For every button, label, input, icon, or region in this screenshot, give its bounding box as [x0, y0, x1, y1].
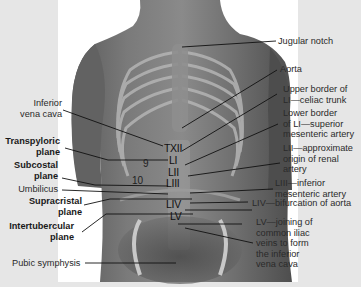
label-line: plane — [0, 147, 60, 158]
label-line: Transpyloric — [0, 136, 60, 147]
rib-number-9: 9 — [143, 158, 149, 169]
label-line: of LI—superior — [283, 119, 354, 130]
label-line: origin of renal — [283, 154, 353, 165]
label-line: LIII—inferior — [275, 178, 346, 189]
label-line: LV—joining of — [256, 217, 313, 228]
label-line: vena cava — [6, 109, 62, 120]
label-line: LII—approximate — [283, 143, 353, 154]
label-renal-artery: LII—approximate origin of renal artery — [283, 143, 353, 175]
label-line: LI—celiac trunk — [283, 95, 347, 106]
label-line: mesenteric artery — [283, 129, 354, 140]
vertebra-liii: LIII — [166, 178, 179, 189]
label-line: artery — [283, 164, 353, 175]
vertebra-liv: LIV — [166, 199, 181, 210]
label-celiac-trunk: Upper border of LI—celiac trunk — [283, 84, 347, 105]
label-line: LIV—bifurcation of aorta — [252, 198, 351, 209]
label-pubic-symphysis: Pubic symphysis — [12, 258, 80, 269]
label-inferior-vena-cava: Inferior vena cava — [6, 98, 62, 119]
label-line: Umbilicus — [0, 184, 58, 195]
label-superior-mesenteric: Lower border of LI—superior mesenteric a… — [283, 108, 354, 140]
vertebra-txii: TXII — [164, 143, 182, 154]
vertebra-li: LI — [169, 155, 177, 166]
label-umbilicus: Umbilicus — [0, 184, 58, 195]
label-supracristal-plane: Supracristal plane — [10, 196, 82, 217]
label-line: Subcostal — [0, 160, 58, 171]
label-common-iliac-veins: LV—joining of common iliac veins to form… — [256, 217, 313, 270]
label-line: the inferior — [256, 249, 313, 260]
label-line: veins to form — [256, 238, 313, 249]
label-aorta: Aorta — [280, 64, 302, 75]
label-line: Inferior — [6, 98, 62, 109]
label-line: Jugular notch — [278, 36, 333, 47]
label-subcostal-plane: Subcostal plane — [0, 160, 58, 181]
label-line: Aorta — [280, 64, 302, 75]
label-transpyloric-plane: Transpyloric plane — [0, 136, 60, 157]
vertebra-lv: LV — [170, 211, 181, 222]
label-inferior-mesenteric: LIII—inferior mesenteric artery — [275, 178, 346, 199]
label-line: common iliac — [256, 228, 313, 239]
sternum — [172, 44, 188, 132]
label-line: Pubic symphysis — [12, 258, 80, 269]
label-line: Upper border of — [283, 84, 347, 95]
label-jugular-notch: Jugular notch — [278, 36, 333, 47]
label-line: Intertubercular — [0, 221, 74, 232]
rib-number-10: 10 — [132, 175, 143, 186]
label-line: plane — [10, 207, 82, 218]
label-aortic-bifurcation: LIV—bifurcation of aorta — [252, 198, 351, 209]
label-line: vena cava — [256, 259, 313, 270]
label-line: plane — [0, 232, 74, 243]
label-line: plane — [0, 171, 58, 182]
label-line: Lower border — [283, 108, 354, 119]
label-intertubercular-plane: Intertubercular plane — [0, 221, 74, 242]
label-line: Supracristal — [10, 196, 82, 207]
